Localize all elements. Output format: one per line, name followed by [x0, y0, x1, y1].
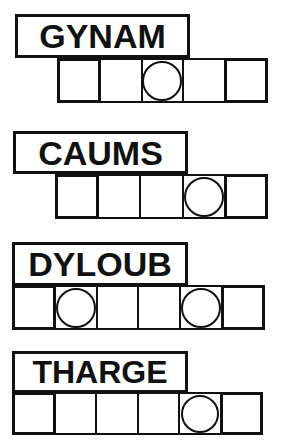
word-scramble-sheet: GYNAMCAUMSDYLOUBTHARGE: [0, 0, 288, 441]
answer-cell[interactable]: [95, 392, 139, 435]
answer-cell[interactable]: [54, 285, 98, 330]
answer-cell-row: [55, 174, 276, 219]
scrambled-word-text: DYLOUB: [28, 247, 172, 281]
answer-cell[interactable]: [178, 392, 222, 435]
scrambled-word-text: GYNAM: [39, 19, 166, 53]
scrambled-word-box: GYNAM: [15, 14, 190, 58]
circle-marker-icon: [181, 288, 221, 328]
answer-cell[interactable]: [224, 174, 268, 219]
answer-cell[interactable]: [12, 285, 56, 330]
scrambled-word-box: CAUMS: [13, 131, 188, 174]
circle-marker-icon: [184, 177, 224, 217]
circle-marker-icon: [142, 61, 182, 101]
answer-cell[interactable]: [137, 285, 181, 330]
answer-cell-row: [57, 58, 276, 103]
scrambled-word-text: THARGE: [32, 356, 167, 388]
scrambled-word-text: CAUMS: [38, 136, 163, 170]
answer-cell[interactable]: [220, 392, 264, 435]
scrambled-word-box: THARGE: [12, 351, 188, 393]
scrambled-word-box: DYLOUB: [12, 242, 188, 286]
answer-cell[interactable]: [141, 58, 185, 103]
answer-cell[interactable]: [99, 58, 143, 103]
answer-cell[interactable]: [139, 174, 183, 219]
answer-cell[interactable]: [55, 174, 99, 219]
answer-cell[interactable]: [96, 285, 140, 330]
answer-cell[interactable]: [137, 392, 181, 435]
circle-marker-icon: [181, 395, 219, 433]
answer-cell[interactable]: [12, 392, 56, 435]
answer-cell-row: [12, 392, 273, 435]
answer-cell[interactable]: [97, 174, 141, 219]
answer-cell[interactable]: [54, 392, 98, 435]
answer-cell[interactable]: [57, 58, 101, 103]
answer-cell[interactable]: [221, 285, 265, 330]
answer-cell[interactable]: [224, 58, 268, 103]
circle-marker-icon: [56, 288, 96, 328]
answer-cell[interactable]: [182, 174, 226, 219]
answer-cell[interactable]: [182, 58, 226, 103]
answer-cell-row: [12, 285, 275, 330]
answer-cell[interactable]: [179, 285, 223, 330]
